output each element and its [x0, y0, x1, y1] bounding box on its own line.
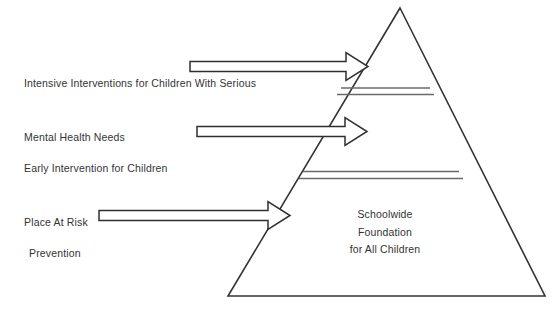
pyramid-base-tier-line-3: for All Children — [320, 241, 450, 259]
pyramid-base-tier-line-1: Schoolwide — [320, 206, 450, 224]
label-tier-intensive-line-1: Intensive Interventions for Children Wit… — [24, 74, 256, 92]
diagram-canvas: Intensive Interventions for Children Wit… — [0, 0, 555, 311]
label-tier-early-intervention-line-1: Early Intervention for Children — [24, 159, 168, 177]
pyramid-base-tier-text: Schoolwide Foundation for All Children — [320, 206, 450, 259]
label-tier-prevention: Prevention — [29, 208, 81, 298]
pyramid-base-tier-line-2: Foundation — [320, 224, 450, 242]
label-tier-prevention-line-1: Prevention — [29, 244, 81, 262]
